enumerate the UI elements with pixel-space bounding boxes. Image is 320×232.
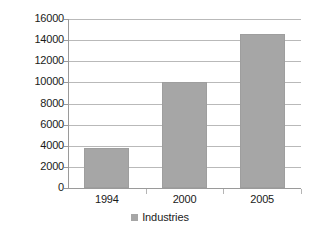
chart-legend: Industries — [0, 211, 320, 223]
y-tick-label: 0 — [0, 182, 64, 193]
y-tick-label: 10000 — [0, 76, 64, 87]
y-tick-label: 2000 — [0, 161, 64, 172]
y-tick-label: 6000 — [0, 119, 64, 130]
bars-group — [68, 19, 301, 188]
x-tick-mark — [301, 189, 302, 194]
y-tick-label: 4000 — [0, 140, 64, 151]
y-tick-label: 8000 — [0, 98, 64, 109]
plot-wrapper: 0200040006000800010000120001400016000 19… — [0, 0, 320, 232]
gridline — [68, 188, 301, 189]
x-tick-label: 1994 — [68, 193, 146, 206]
bar — [240, 34, 285, 188]
x-axis-tick-labels: 199420002005 — [68, 193, 301, 209]
legend-swatch-icon — [131, 214, 138, 221]
x-tick-label: 2005 — [223, 193, 301, 206]
y-tick-label: 14000 — [0, 34, 64, 45]
bar-chart: 0200040006000800010000120001400016000 19… — [0, 0, 320, 232]
legend-label: Industries — [142, 211, 189, 223]
x-tick-label: 2000 — [146, 193, 224, 206]
bar — [84, 148, 129, 188]
bar — [162, 82, 207, 188]
y-axis-tick-labels: 0200040006000800010000120001400016000 — [0, 0, 64, 232]
y-tick-label: 16000 — [0, 13, 64, 24]
y-tick-label: 12000 — [0, 55, 64, 66]
y-tick-mark — [64, 188, 68, 189]
